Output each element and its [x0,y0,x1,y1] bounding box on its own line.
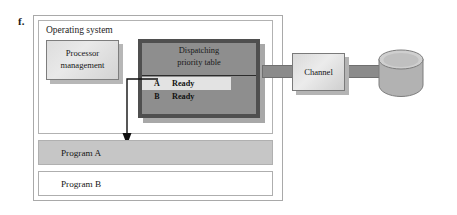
processor-management-label-line1: Processor [66,48,99,60]
program-a-label: Program A [61,148,101,158]
figure-letter: f. [18,15,25,27]
dispatching-table-divider [142,75,256,76]
processor-management-label-line2: management [61,60,105,72]
dispatching-table-title: Dispatching priority table [142,45,256,69]
figure-canvas: f. Operating system Processor management… [0,0,457,215]
disk-drive-icon [378,49,424,98]
table-cell-state: Ready [172,79,194,88]
dispatching-table-title-line1: Dispatching [142,45,256,57]
operating-system-label: Operating system [46,25,113,35]
channel-label: Channel [304,67,333,77]
dispatch-arrow [110,78,160,148]
program-b-label: Program B [61,179,101,189]
channel-box: Channel [292,53,345,91]
processor-management-box: Processor management [46,40,119,80]
dispatching-table-title-line2: priority table [142,57,256,69]
program-b-bar: Program B [38,171,273,196]
table-cell-state: Ready [172,92,194,101]
program-a-bar: Program A [38,140,273,165]
table-to-channel-connector [262,65,293,78]
